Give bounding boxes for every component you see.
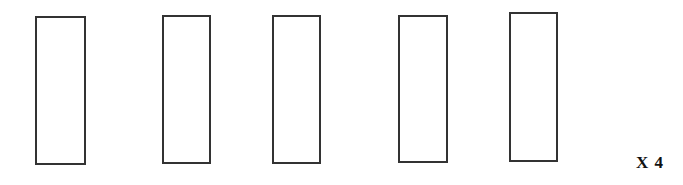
rectangle-5 [509,12,558,162]
rectangle-3 [272,15,321,164]
rectangle-4 [398,15,448,163]
multiplier-label: X 4 [636,153,664,173]
rectangle-1 [35,16,86,165]
rectangle-2 [162,15,211,164]
